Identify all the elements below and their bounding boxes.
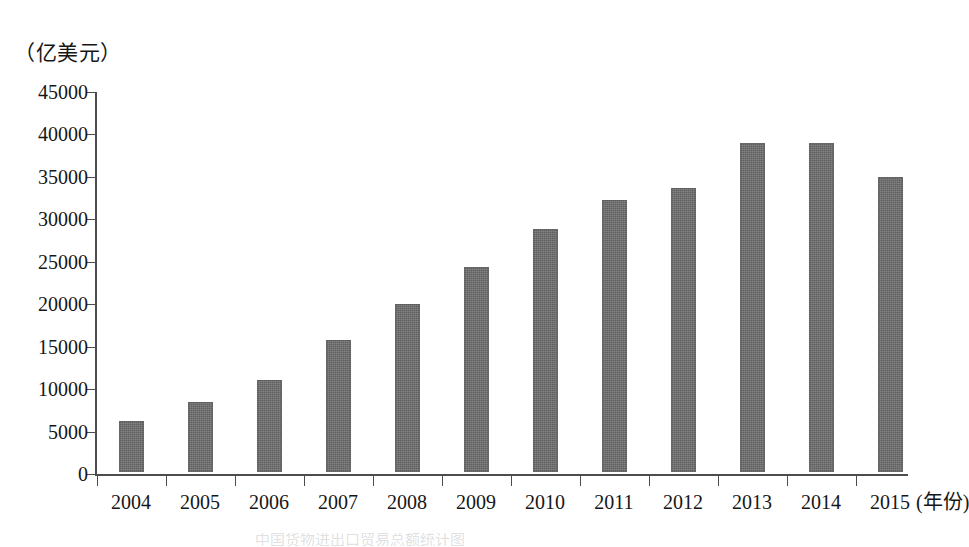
y-axis-line [95,92,97,475]
x-axis-tick-label: 2009 [436,492,516,512]
bar [119,421,144,472]
bar [533,229,558,472]
y-axis-tick-label: 30000 [38,209,88,229]
x-axis-tick-label: 2006 [229,492,309,512]
x-axis-tick-mark [442,475,443,486]
y-axis-tick-label: 45000 [38,82,88,102]
bar [464,267,489,472]
y-axis-tick-label: 0 [78,464,88,484]
plot-area: 0500010000150002000025000300003500040000… [96,92,908,474]
x-axis-tick-mark [787,475,788,486]
bar [188,402,213,472]
bar [809,143,834,472]
x-axis-tick-label: 2011 [574,492,654,512]
bar [395,304,420,472]
y-axis-tick-label: 40000 [38,124,88,144]
x-axis-tick-mark [511,475,512,486]
bar [257,380,282,472]
x-axis-tick-label: 2013 [712,492,792,512]
bar [671,188,696,472]
x-axis-tick-mark [304,475,305,486]
bar [740,143,765,472]
x-axis-tick-label: 2008 [367,492,447,512]
x-axis-tick-label: 2012 [643,492,723,512]
y-axis-tick-mark [87,92,96,93]
y-axis-tick-mark [87,389,96,390]
x-axis-tick-mark [580,475,581,486]
x-axis-tick-mark [97,475,98,486]
y-axis-tick-label: 5000 [48,422,88,442]
y-axis-tick-mark [87,474,96,475]
x-axis-tick-mark [373,475,374,486]
y-axis-tick-mark [87,134,96,135]
y-axis-tick-label: 25000 [38,252,88,272]
y-axis-tick-mark [87,432,96,433]
y-axis-tick-mark [87,219,96,220]
x-axis-tick-label: 2004 [91,492,171,512]
bar [602,200,627,472]
x-axis-tick-label: 2014 [781,492,861,512]
y-axis-tick-mark [87,262,96,263]
y-axis-tick-label: 35000 [38,167,88,187]
x-axis-tick-mark [235,475,236,486]
x-axis-tick-label: 2007 [298,492,378,512]
y-axis-tick-label: 20000 [38,294,88,314]
y-axis-tick-mark [87,177,96,178]
x-axis-tick-label: 2005 [160,492,240,512]
y-axis-tick-label: 10000 [38,379,88,399]
x-axis-tick-mark [166,475,167,486]
bar [878,177,903,472]
figure-caption: 中国货物进出口贸易总额统计图 [255,533,685,546]
y-axis-tick-mark [87,347,96,348]
bar [326,340,351,472]
x-axis-tick-label: 2010 [505,492,585,512]
x-axis-title: (年份) [916,492,969,512]
y-axis-unit-label: （亿美元） [14,36,122,66]
y-axis-tick-mark [87,304,96,305]
y-axis-tick-label: 15000 [38,337,88,357]
x-axis-tick-mark [856,475,857,486]
x-axis-tick-mark [718,475,719,486]
x-axis-tick-mark [649,475,650,486]
